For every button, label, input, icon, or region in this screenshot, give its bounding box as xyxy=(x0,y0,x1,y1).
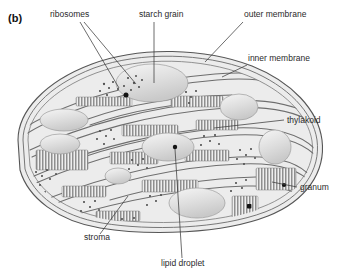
lipid-droplet xyxy=(124,93,129,98)
granum xyxy=(171,96,223,107)
label-granum: granum xyxy=(300,182,329,192)
label-inner-membrane: inner membrane xyxy=(248,53,310,63)
chloroplast-diagram: (b) ribosomes starch grain outer membran… xyxy=(0,0,345,274)
granum xyxy=(62,186,106,197)
starch-grain xyxy=(220,94,258,120)
label-thylakoid: thylakoid xyxy=(287,115,321,125)
lipid-droplet xyxy=(247,204,251,208)
granum xyxy=(76,97,132,106)
starch-grain xyxy=(40,134,80,154)
starch-grain xyxy=(169,188,225,218)
label-outer-membrane: outer membrane xyxy=(244,9,307,19)
starch-grain xyxy=(142,133,194,161)
label-lipid-droplet: lipid droplet xyxy=(161,258,205,268)
label-stroma: stroma xyxy=(84,232,110,242)
label-ribosomes: ribosomes xyxy=(50,9,89,19)
panel-label: (b) xyxy=(8,12,22,24)
starch-grain xyxy=(105,168,131,184)
figure-canvas: (b) ribosomes starch grain outer membran… xyxy=(0,0,345,274)
granum xyxy=(196,120,238,130)
starch-grain xyxy=(40,109,88,131)
granum xyxy=(256,168,296,190)
label-starch-grain: starch grain xyxy=(139,9,184,19)
starch-grain xyxy=(259,130,291,164)
leader-outer-membrane xyxy=(205,22,243,62)
lipid-droplet xyxy=(173,145,177,149)
